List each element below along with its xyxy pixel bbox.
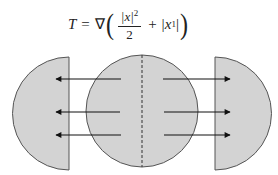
left-half-disc	[13, 57, 70, 170]
diagram-canvas	[0, 0, 278, 175]
right-half-disc	[215, 57, 272, 170]
